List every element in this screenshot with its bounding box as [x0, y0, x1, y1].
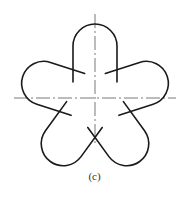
- figure-caption: (c): [0, 170, 189, 182]
- lobe-right: [105, 56, 174, 116]
- lobe-bottom-left: [33, 102, 103, 175]
- five-lobe-drawing: [0, 0, 189, 197]
- centerlines: [14, 14, 176, 146]
- lobe-bottom-right: [88, 102, 158, 175]
- lobe-left: [16, 56, 85, 116]
